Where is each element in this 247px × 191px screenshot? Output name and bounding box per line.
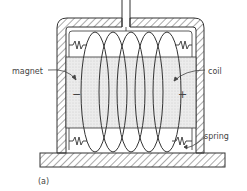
magnet-label: magnet <box>12 67 43 76</box>
spring-top-right <box>175 41 192 49</box>
positive-pole-symbol: + <box>178 88 187 101</box>
magnet <box>66 57 196 128</box>
coil-label: coil <box>208 67 222 76</box>
spring-bottom-right <box>172 137 192 145</box>
spring-label: spring <box>204 132 229 141</box>
spring-bottom-left <box>69 137 87 145</box>
spring-top-left <box>69 41 87 49</box>
negative-pole-symbol: − <box>72 88 81 101</box>
transducer-diagram: magnet coil spring (a) − + <box>0 0 247 191</box>
panel-label: (a) <box>38 177 49 186</box>
